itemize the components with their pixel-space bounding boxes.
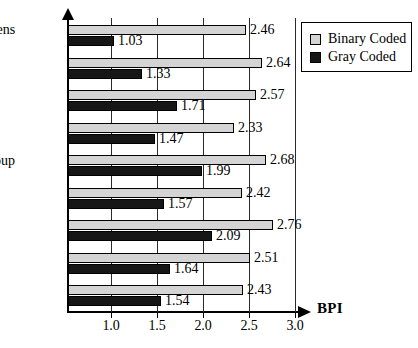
gridline xyxy=(295,18,296,312)
category-label: semigroup xyxy=(0,154,66,168)
category-label: nand xyxy=(0,186,66,200)
x-axis-arrow-icon xyxy=(298,306,311,318)
x-axis-tick-label: 1.0 xyxy=(91,318,131,334)
legend-item-gray-coded: Gray Coded xyxy=(310,49,396,65)
bar xyxy=(68,101,177,111)
x-axis-tick-label: 2.0 xyxy=(183,318,223,334)
x-axis-title: BPI xyxy=(317,300,343,317)
bar-value-label: 2.46 xyxy=(250,23,275,37)
bar-value-label: 1.47 xyxy=(159,132,184,146)
category-label: fastqueens xyxy=(0,23,66,37)
bar-value-label: 1.03 xyxy=(118,34,143,48)
bar-value-label: 2.57 xyxy=(260,88,285,102)
bar xyxy=(68,264,170,274)
bar-chart: 1.01.52.02.53.0 BPI fastqueensqsortreduc… xyxy=(0,0,418,348)
bar xyxy=(68,188,242,198)
bar-value-label: 2.51 xyxy=(254,251,279,265)
bar xyxy=(68,296,161,306)
category-label: chat xyxy=(0,284,66,298)
bar-value-label: 2.42 xyxy=(246,186,271,200)
legend-swatch-gray-coded-icon xyxy=(310,52,321,63)
bar-value-label: 1.57 xyxy=(168,197,193,211)
legend-swatch-binary-coded-icon xyxy=(310,34,321,45)
y-axis-arrow-icon xyxy=(62,8,74,20)
bar xyxy=(68,155,266,165)
category-label: boyer xyxy=(0,219,66,233)
bar xyxy=(68,166,202,176)
legend-label-binary-coded: Binary Coded xyxy=(328,32,406,46)
bar xyxy=(68,253,250,263)
bar xyxy=(68,134,155,144)
bar xyxy=(68,25,246,35)
bar xyxy=(68,36,114,46)
category-label: browse xyxy=(0,251,66,265)
bar xyxy=(68,231,212,241)
category-label: circuit xyxy=(0,121,66,135)
bar-value-label: 1.64 xyxy=(174,262,199,276)
category-label: reducer xyxy=(0,88,66,102)
bar-value-label: 2.43 xyxy=(247,283,272,297)
x-axis-line xyxy=(67,311,300,313)
x-axis-tick-label: 2.5 xyxy=(229,318,269,334)
bar xyxy=(68,123,234,133)
bar-value-label: 1.71 xyxy=(181,99,206,113)
bar xyxy=(68,69,142,79)
x-axis-tick-label: 1.5 xyxy=(137,318,177,334)
bar xyxy=(68,285,243,295)
bar-value-label: 2.09 xyxy=(216,229,241,243)
bar-value-label: 1.33 xyxy=(146,67,171,81)
bar xyxy=(68,90,256,100)
bar-value-label: 2.76 xyxy=(277,218,302,232)
category-label: qsort xyxy=(0,56,66,70)
bar-value-label: 2.33 xyxy=(238,121,263,135)
legend-item-binary-coded: Binary Coded xyxy=(310,31,406,47)
bar xyxy=(68,220,273,230)
bar xyxy=(68,199,164,209)
bar-value-label: 1.99 xyxy=(206,164,231,178)
x-axis-tick-label: 3.0 xyxy=(275,318,315,334)
bar-value-label: 2.64 xyxy=(266,56,291,70)
legend: Binary Coded Gray Coded xyxy=(301,22,412,72)
legend-label-gray-coded: Gray Coded xyxy=(328,50,396,64)
bar-value-label: 1.54 xyxy=(165,294,190,308)
bar-value-label: 2.68 xyxy=(270,153,295,167)
